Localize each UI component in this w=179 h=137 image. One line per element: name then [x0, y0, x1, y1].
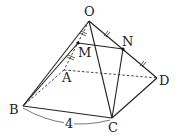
edge-CD [112, 78, 157, 118]
label-C: C [108, 120, 118, 135]
tick-marks-MA [67, 55, 75, 60]
edge-AB [23, 70, 64, 106]
label-A: A [61, 70, 72, 85]
length-label-BC: 4 [65, 116, 73, 131]
pyramid-diagram: 4 O M N A D B C [0, 0, 179, 137]
label-D: D [159, 73, 169, 88]
label-M: M [78, 45, 91, 60]
label-B: B [9, 102, 19, 117]
edge-AD [64, 70, 157, 78]
label-O: O [84, 4, 95, 19]
label-N: N [122, 34, 133, 49]
segment-NC [112, 49, 123, 118]
edge-OC [89, 21, 112, 118]
edge-OB [23, 21, 89, 106]
